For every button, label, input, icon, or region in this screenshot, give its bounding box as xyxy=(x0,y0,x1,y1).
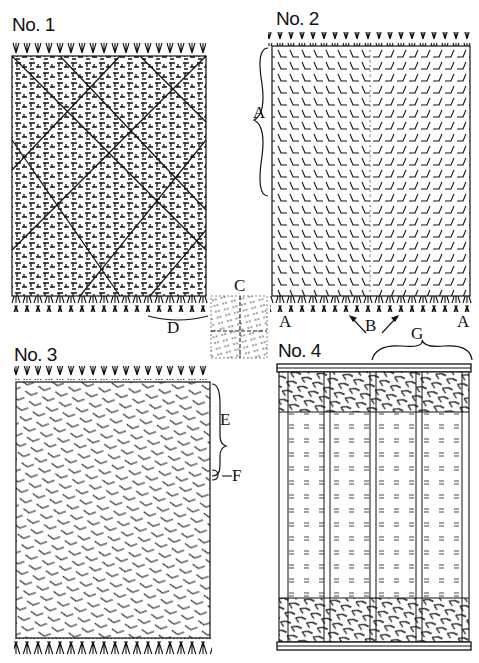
figure-label-no2: No. 2 xyxy=(276,8,319,30)
figure-no4-blanket xyxy=(277,340,472,650)
herringbone-field xyxy=(16,382,210,638)
figure-no2-blanket xyxy=(254,32,472,333)
top-fringe xyxy=(268,32,472,46)
label-e: E xyxy=(220,410,230,430)
label-b: B xyxy=(365,316,376,336)
chevron-field-right xyxy=(370,46,470,296)
figure-label-no1: No. 1 xyxy=(12,14,55,36)
brace-e xyxy=(212,384,226,476)
label-a-bottom-left: A xyxy=(279,312,291,332)
top-fringe xyxy=(14,366,210,380)
label-g: G xyxy=(411,324,423,344)
figure-c-detail xyxy=(211,296,267,358)
chevron-field-left xyxy=(272,46,370,296)
label-c: C xyxy=(234,276,245,296)
figure-no3-blanket xyxy=(14,366,232,654)
bottom-fringe xyxy=(270,296,472,312)
figure-label-no3: No. 3 xyxy=(14,344,57,366)
figure-no1-blanket xyxy=(10,42,208,320)
figure-label-no4: No. 4 xyxy=(278,340,321,362)
illustration-canvas xyxy=(0,0,479,663)
label-a-bottom-right: A xyxy=(457,312,469,332)
top-fringe xyxy=(10,42,206,56)
label-f: F xyxy=(232,466,241,486)
label-d: D xyxy=(167,318,179,338)
label-a-top: A xyxy=(253,103,265,123)
bottom-fringe xyxy=(10,296,208,312)
bottom-fringe xyxy=(14,638,212,654)
